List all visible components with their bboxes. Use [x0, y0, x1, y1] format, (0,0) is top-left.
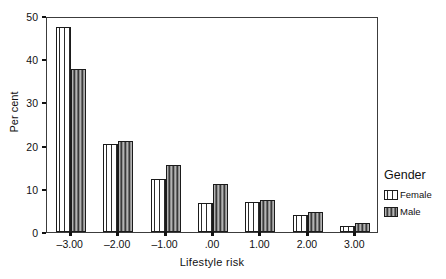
bar — [355, 223, 370, 233]
bar — [245, 202, 260, 232]
y-axis-title: Per cent — [8, 72, 20, 152]
male-striped-swatch — [384, 207, 398, 217]
x-tick-label: 3.00 — [331, 239, 377, 250]
x-tick-mark — [211, 232, 214, 236]
x-tick-label: –2.00 — [94, 239, 140, 250]
x-tick-label: .00 — [189, 239, 235, 250]
bar — [308, 212, 323, 232]
y-tick-label: 40 — [14, 55, 38, 65]
legend-item-label: Female — [400, 189, 432, 200]
x-tick-label: 2.00 — [284, 239, 330, 250]
legend-item-label: Male — [400, 206, 421, 217]
female-striped-swatch — [384, 190, 398, 200]
bar — [260, 200, 275, 232]
legend: Gender FemaleMale — [384, 168, 446, 223]
x-tick-label: –3.00 — [47, 239, 93, 250]
x-tick-mark — [258, 232, 261, 236]
bar — [56, 27, 71, 232]
bar — [71, 69, 86, 232]
bar — [198, 203, 213, 232]
y-tick-label: 20 — [14, 142, 38, 152]
legend-title: Gender — [384, 168, 446, 182]
bar — [293, 215, 308, 232]
y-tick-label: 10 — [14, 185, 38, 195]
x-tick-mark — [116, 232, 119, 236]
plot-area — [46, 17, 378, 233]
x-tick-label: 1.00 — [236, 239, 282, 250]
legend-items: FemaleMale — [384, 189, 446, 217]
legend-item[interactable]: Male — [384, 206, 446, 217]
chart-container: Per cent 01020304050 –3.00–2.00–1.00.001… — [0, 0, 446, 279]
y-tick-label: 0 — [14, 228, 38, 238]
x-tick-mark — [69, 232, 72, 236]
x-tick-mark — [306, 232, 309, 236]
x-tick-mark — [353, 232, 356, 236]
legend-item[interactable]: Female — [384, 189, 446, 200]
bar — [213, 184, 228, 232]
bar — [166, 165, 181, 232]
y-tick-label: 50 — [14, 12, 38, 22]
x-axis-title: Lifestyle risk — [46, 256, 378, 268]
bar — [103, 144, 118, 232]
y-tick-label: 30 — [14, 98, 38, 108]
bar — [118, 141, 133, 232]
x-tick-label: –1.00 — [142, 239, 188, 250]
bar — [151, 179, 166, 232]
x-tick-mark — [164, 232, 167, 236]
